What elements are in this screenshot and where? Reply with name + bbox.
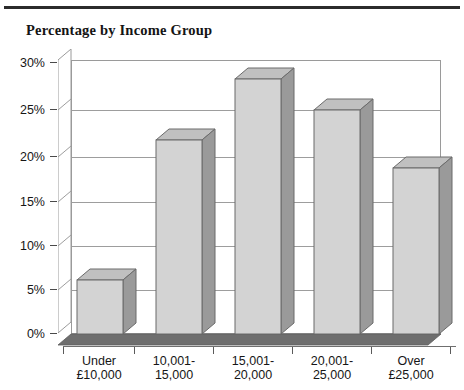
x-tick-mark-2 (213, 347, 214, 354)
y-tick-label-30: 30% (20, 56, 45, 70)
x-label-line-2: £25,000 (371, 368, 451, 382)
bar-15001-20000[interactable] (235, 64, 297, 348)
x-tick-mark-4 (371, 347, 372, 354)
y-tick-mark-10 (50, 245, 57, 246)
y-tick-mark-25 (50, 109, 57, 110)
bar-20001-25000[interactable] (314, 95, 376, 347)
y-tick-mark-15 (50, 201, 57, 202)
bar-10001-15000[interactable] (156, 125, 218, 347)
x-tick-label-20001-25000: 20,001- 25,000 (292, 354, 372, 382)
x-tick-label-over-25000: Over £25,000 (371, 354, 451, 382)
x-label-line-1: Under (59, 354, 139, 368)
x-tick-mark-0 (63, 347, 64, 354)
chart-page: Percentage by Income Group (0, 0, 464, 390)
y-tick-mark-20 (50, 156, 57, 157)
x-label-line-2: 25,000 (292, 368, 372, 382)
bar-series (0, 0, 464, 390)
y-tick-mark-0 (50, 333, 57, 334)
y-tick-mark-5 (50, 289, 57, 290)
y-tick-label-20: 20% (20, 150, 45, 164)
x-label-line-1: 15,001- (213, 354, 293, 368)
bar-under-10000[interactable] (77, 265, 139, 345)
x-tick-label-10001-15000: 10,001- 15,000 (134, 354, 214, 382)
x-label-line-1: 20,001- (292, 354, 372, 368)
x-axis-line (63, 346, 456, 347)
x-label-line-1: Over (371, 354, 451, 368)
x-label-line-2: 20,000 (213, 368, 293, 382)
x-tick-label-under-10000: Under £10,000 (59, 354, 139, 382)
x-label-line-2: £10,000 (59, 368, 139, 382)
x-label-line-1: 10,001- (134, 354, 214, 368)
y-tick-mark-30 (50, 62, 57, 63)
bar-over-25000[interactable] (393, 153, 455, 347)
y-tick-label-25: 25% (20, 103, 45, 117)
x-label-line-2: 15,000 (134, 368, 214, 382)
x-tick-label-15001-20000: 15,001- 20,000 (213, 354, 293, 382)
y-tick-label-10: 10% (20, 239, 45, 253)
x-tick-mark-3 (292, 347, 293, 354)
y-tick-label-5: 5% (27, 283, 45, 297)
y-axis: 30% 25% 20% 15% 10% 5% 0% (0, 0, 57, 390)
y-tick-label-0: 0% (27, 327, 45, 341)
x-tick-mark-1 (134, 347, 135, 354)
y-tick-label-15: 15% (20, 195, 45, 209)
x-tick-mark-5 (450, 347, 451, 354)
